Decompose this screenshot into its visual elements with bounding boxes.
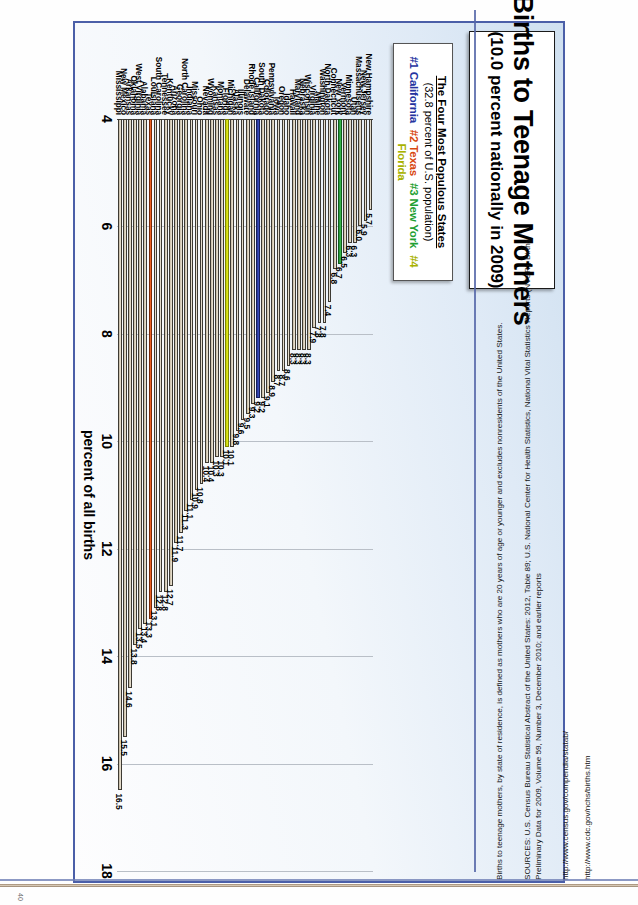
- bar-rhode-island: [251, 119, 255, 404]
- bar-california: [256, 119, 260, 398]
- legend: The Four Most Populous States (32.8 perc…: [393, 43, 453, 281]
- bar-maryland: [297, 119, 301, 350]
- bar-row: 9.1Colorado: [266, 119, 270, 871]
- bar-row: 8.3Maryland: [297, 119, 301, 871]
- bar-wisconsin: [307, 119, 311, 350]
- bar-vermont: [343, 119, 347, 253]
- bar-row: 10.1Michigan: [230, 119, 234, 871]
- bar-row: 12.8South Carolina: [159, 119, 163, 871]
- bar-row: 8.7Iowa: [277, 119, 281, 871]
- bar-nevada: [205, 119, 209, 463]
- x-axis-title: percent of all births: [81, 119, 97, 871]
- bar-utah: [353, 119, 357, 243]
- bar-row: 6.3Minnesota: [348, 119, 352, 871]
- x-tick-16: 16: [99, 756, 115, 772]
- scanned-page: Births to Teenage Mothers (10.0 percent …: [0, 0, 638, 905]
- sources-note-line-2: Preliminary Data for 2009, Volume 59, Nu…: [533, 573, 544, 880]
- bar-row: 10.3Montana: [220, 119, 224, 871]
- bar-row: 10.3Kansas: [215, 119, 219, 871]
- bar-row: 13.8Oklahoma: [133, 119, 137, 871]
- x-tick-12: 12: [99, 541, 115, 557]
- bar-row: 13.1Louisiana: [154, 119, 158, 871]
- bar-value-label: 5.7: [364, 213, 374, 225]
- legend-entry-texas: #2 Texas: [408, 130, 420, 176]
- bar-row: 14.6Arkansas: [128, 119, 132, 871]
- scan-edge-line-2: [0, 884, 638, 887]
- bar-idaho: [287, 119, 291, 366]
- bar-row: 10.4Wyoming: [210, 119, 214, 871]
- bar-new-hampshire: [369, 119, 373, 210]
- x-tick-6: 6: [99, 223, 115, 231]
- bar-connecticut: [333, 119, 337, 269]
- bar-row: 13.4Alabama: [143, 119, 147, 871]
- scan-edge-line-1: [0, 879, 638, 881]
- bar-row: 8.7Oregon: [282, 119, 286, 871]
- bar-pennsylvania: [271, 119, 275, 382]
- bar-texas: [149, 119, 153, 619]
- bar-row: 7.8Washington: [323, 119, 327, 871]
- bar-row: 12.7Kentucky: [169, 119, 173, 871]
- bar-ohio: [200, 119, 204, 484]
- bar-minnesota: [348, 119, 352, 243]
- bar-row: 9.8Alaska: [236, 119, 240, 871]
- legend-population-note: (32.8 percent of U.S. population): [423, 50, 435, 274]
- bar-massachusetts: [358, 119, 362, 226]
- bar-series: 16.5Mississippi15.5New Mexico14.6Arkansa…: [117, 119, 373, 871]
- page-number: 40: [17, 893, 24, 901]
- bar-row: 10.8Ohio: [200, 119, 204, 871]
- bar-new-jersey: [364, 119, 368, 221]
- legend-entry-california: #1 California: [408, 56, 420, 122]
- bar-wyoming: [210, 119, 214, 463]
- bar-georgia: [179, 119, 183, 533]
- bar-row: 6.7New York: [338, 119, 342, 871]
- bar-arkansas: [128, 119, 132, 688]
- bar-oklahoma: [133, 119, 137, 645]
- x-tick-4: 4: [99, 115, 115, 123]
- x-tick-18: 18: [99, 863, 115, 879]
- bar-row: 9.6Illinois: [241, 119, 245, 871]
- bar-row: 7.4North Dakota: [328, 119, 332, 871]
- bar-row: 5.7New Hampshire: [369, 119, 373, 871]
- bar-mississippi: [118, 119, 122, 790]
- bar-row: 7.9Virginia: [312, 119, 316, 871]
- bar-row: 10.1Florida: [225, 119, 229, 871]
- bar-kentucky: [169, 119, 173, 586]
- bar-arizona: [174, 119, 178, 543]
- bar-south-dakota: [261, 119, 265, 398]
- bar-row: 8.9Pennsylvania: [271, 119, 275, 871]
- bar-nebraska: [302, 119, 306, 350]
- bar-row: 8.3Wisconsin: [307, 119, 311, 871]
- bar-indiana: [190, 119, 194, 500]
- bar-row: 7.8Maine: [318, 119, 322, 871]
- gridline: [117, 871, 373, 872]
- bar-row: 9.2South Dakota: [261, 119, 265, 871]
- x-tick-8: 8: [99, 330, 115, 338]
- cdc-url-link[interactable]: http://www.cdc.gov/nchs/births.htm: [582, 755, 593, 880]
- category-label: New Hampshire: [365, 54, 374, 115]
- bar-row: 8.3Nebraska: [302, 119, 306, 871]
- bar-missouri: [195, 119, 199, 490]
- census-url-link[interactable]: http://www.census.gov/compendia/statab/: [560, 731, 571, 880]
- bar-michigan: [230, 119, 234, 447]
- bar-row: 15.5New Mexico: [123, 119, 127, 871]
- bar-virginia: [312, 119, 316, 328]
- bar-colorado: [266, 119, 270, 393]
- bar-row: 5.9New Jersey: [364, 119, 368, 871]
- bar-florida: [225, 119, 229, 447]
- bar-delaware: [246, 119, 250, 414]
- bar-oregon: [282, 119, 286, 371]
- bar-new-york: [338, 119, 342, 264]
- bar-row: 6.5Vermont: [343, 119, 347, 871]
- bar-north-carolina: [184, 119, 188, 511]
- bar-louisiana: [154, 119, 158, 608]
- bar-south-carolina: [159, 119, 163, 592]
- bar-row: 8.3Hawaii: [292, 119, 296, 871]
- bar-row: 13.5West Virginia: [138, 119, 142, 871]
- plot-area: 16.5Mississippi15.5New Mexico14.6Arkansa…: [117, 119, 373, 871]
- bar-row: 9.2California: [256, 119, 260, 871]
- slide-border-line: [474, 10, 476, 872]
- bar-montana: [220, 119, 224, 457]
- bar-row: 16.5Mississippi: [118, 119, 122, 871]
- bar-row: 12.8Tennessee: [164, 119, 168, 871]
- bar-kansas: [215, 119, 219, 457]
